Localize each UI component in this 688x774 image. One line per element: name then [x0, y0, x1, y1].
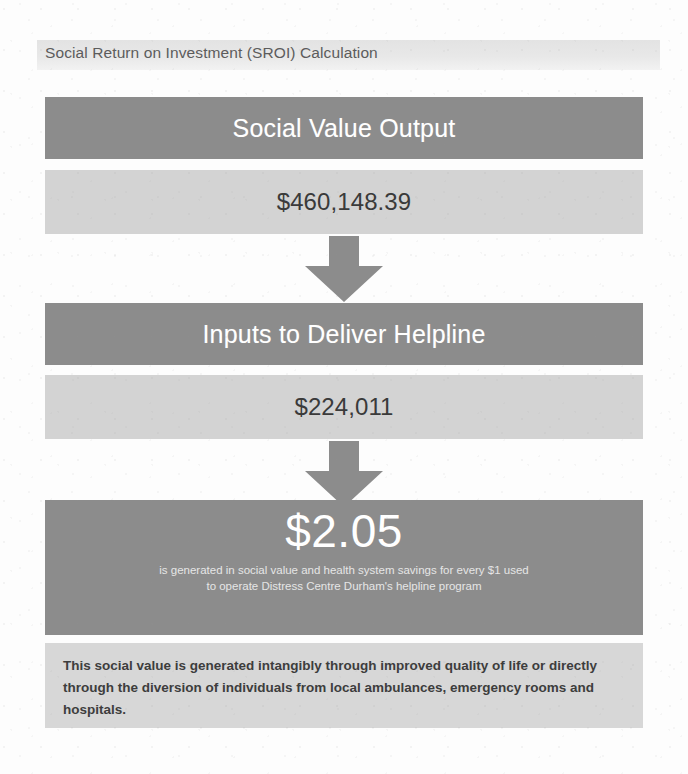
stage-value-text: $224,011	[294, 393, 393, 421]
sroi-infographic: Social Return on Investment (SROI) Calcu…	[0, 0, 688, 774]
stage-label-social-value-output: Social Value Output	[45, 97, 643, 159]
page-title: Social Return on Investment (SROI) Calcu…	[45, 44, 605, 62]
stage-label-inputs-to-deliver-helpline: Inputs to Deliver Helpline	[45, 303, 643, 365]
stage-value-social-value-output: $460,148.39	[45, 170, 643, 234]
stage-value-text: $460,148.39	[277, 188, 412, 216]
sroi-result-block: $2.05 is generated in social value and h…	[45, 500, 643, 635]
sroi-ratio-figure: $2.05	[45, 506, 643, 558]
arrow-down-icon	[303, 441, 385, 509]
sroi-result-caption: is generated in social value and health …	[45, 558, 643, 595]
footnote-text: This social value is generated intangibl…	[63, 655, 621, 721]
sroi-result-caption-line-1: is generated in social value and health …	[91, 562, 597, 579]
arrow-down-icon	[303, 236, 385, 304]
stage-label-text: Social Value Output	[233, 114, 456, 143]
sroi-result-caption-line-2: to operate Distress Centre Durham's help…	[91, 578, 597, 595]
stage-label-text: Inputs to Deliver Helpline	[202, 320, 485, 349]
stage-value-inputs-to-deliver-helpline: $224,011	[45, 375, 643, 439]
footnote-block: This social value is generated intangibl…	[45, 643, 643, 728]
